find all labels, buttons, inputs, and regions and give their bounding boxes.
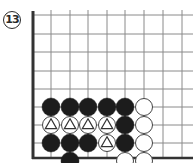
black-stone-icon xyxy=(116,134,134,152)
black-stone-icon xyxy=(42,98,60,116)
white-stone-marked xyxy=(43,117,60,134)
black-stone-icon xyxy=(61,134,79,152)
black-stone xyxy=(116,134,134,152)
black-stone xyxy=(79,98,97,116)
black-stone-icon xyxy=(98,98,116,116)
white-stone xyxy=(136,117,153,134)
white-stone xyxy=(136,135,153,152)
white-stone-icon xyxy=(136,117,153,134)
white-stone-marked xyxy=(99,117,116,134)
black-stone-icon xyxy=(116,116,134,134)
black-stone xyxy=(116,116,134,134)
black-stone-icon xyxy=(116,98,134,116)
black-stone xyxy=(61,134,79,152)
black-stone-icon xyxy=(61,98,79,116)
stones-layer xyxy=(42,98,153,163)
white-stone xyxy=(136,153,153,164)
black-stone-icon xyxy=(42,134,60,152)
black-stone-icon xyxy=(79,98,97,116)
black-stone xyxy=(79,134,97,152)
go-board-diagram xyxy=(0,0,193,163)
black-stone xyxy=(61,152,79,163)
black-stone xyxy=(61,98,79,116)
black-stone xyxy=(116,98,134,116)
black-stone xyxy=(42,98,60,116)
white-stone-icon xyxy=(136,135,153,152)
white-stone-icon xyxy=(136,99,153,116)
board-grid xyxy=(33,10,193,158)
white-stone-icon xyxy=(117,153,134,164)
black-stone-icon xyxy=(79,134,97,152)
black-stone xyxy=(98,98,116,116)
black-stone xyxy=(42,134,60,152)
white-stone-marked xyxy=(99,135,116,152)
white-stone xyxy=(117,153,134,164)
white-stone-marked xyxy=(80,117,97,134)
black-stone-icon xyxy=(61,152,79,163)
white-stone xyxy=(136,99,153,116)
white-stone-icon xyxy=(136,153,153,164)
white-stone-marked xyxy=(62,117,79,134)
